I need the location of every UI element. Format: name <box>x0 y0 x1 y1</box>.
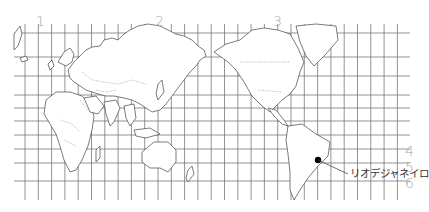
marker-leader-line <box>318 160 348 174</box>
landmass-madagascar <box>96 146 100 162</box>
city-label-rio-de-janeiro: リオデジャネイロ <box>350 167 429 179</box>
landmass-indonesia <box>134 128 160 138</box>
row-label-4: 4 <box>405 144 414 158</box>
landmass-britain <box>48 60 54 70</box>
landmass-new-zealand <box>186 166 194 182</box>
column-label-1: 1 <box>36 14 45 28</box>
landmass-south-america <box>286 124 330 200</box>
landmass-greenland-west <box>14 26 22 50</box>
landmass-southeast-asia <box>124 104 136 126</box>
landmass-north-america <box>214 28 304 112</box>
column-label-2: 2 <box>155 14 164 28</box>
landmass-australia <box>142 142 176 172</box>
column-label-3: 3 <box>273 14 282 28</box>
landmass-india <box>104 100 120 126</box>
